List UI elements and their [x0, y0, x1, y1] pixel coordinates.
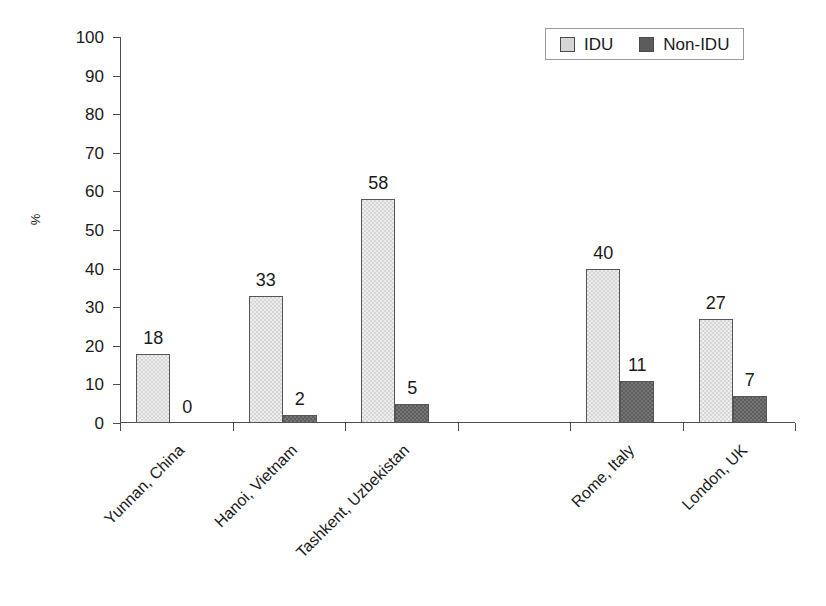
bar-value-non-idu-0: 0 [182, 398, 192, 416]
y-tick-label-80: 80 [85, 106, 104, 123]
bar-chart: IDU Non-IDU % 0102030405060708090100 180… [0, 0, 826, 606]
y-tick-30: 30 [113, 307, 120, 308]
bar-idu-5 [699, 319, 733, 423]
x-tick-2 [345, 423, 346, 431]
y-tick-label-10: 10 [85, 376, 104, 393]
x-tick-0 [120, 423, 121, 431]
y-tick-40: 40 [113, 269, 120, 270]
y-tick-100: 100 [113, 37, 120, 38]
y-axis-title: % [28, 214, 43, 226]
bar-value-idu-4: 40 [593, 244, 613, 262]
x-tick-4 [570, 423, 571, 431]
bar-value-non-idu-4: 11 [628, 356, 647, 374]
x-tick-5 [683, 423, 684, 431]
x-tick-3 [458, 423, 459, 431]
bar-idu-2 [361, 199, 395, 423]
y-tick-80: 80 [113, 114, 120, 115]
bar-value-idu-0: 18 [143, 329, 163, 347]
plot-area: 0102030405060708090100 1803325854011277 [120, 37, 795, 423]
y-tick-0: 0 [113, 423, 120, 424]
y-tick-label-70: 70 [85, 144, 104, 161]
x-tick-1 [233, 423, 234, 431]
y-tick-label-40: 40 [85, 260, 104, 277]
bar-value-non-idu-5: 7 [745, 371, 755, 389]
y-tick-label-20: 20 [85, 337, 104, 354]
y-tick-20: 20 [113, 346, 120, 347]
y-tick-70: 70 [113, 153, 120, 154]
bar-non-idu-1 [283, 415, 317, 423]
y-tick-label-0: 0 [95, 415, 104, 432]
bar-value-idu-2: 58 [368, 174, 388, 192]
y-tick-label-90: 90 [85, 67, 104, 84]
bar-value-non-idu-1: 2 [295, 390, 305, 408]
bar-non-idu-4 [620, 381, 654, 423]
bar-value-idu-1: 33 [256, 271, 276, 289]
bar-value-idu-5: 27 [706, 294, 726, 312]
bar-value-non-idu-2: 5 [407, 379, 417, 397]
x-category-label-2: Tashkent, Uzbekistan [168, 442, 413, 606]
y-tick-10: 10 [113, 384, 120, 385]
bar-non-idu-5 [733, 396, 767, 423]
bar-idu-1 [249, 296, 283, 423]
bar-non-idu-2 [395, 404, 429, 423]
x-tick-6 [795, 423, 796, 431]
y-axis-line [120, 37, 121, 423]
y-tick-label-60: 60 [85, 183, 104, 200]
y-tick-label-50: 50 [85, 222, 104, 239]
bar-idu-4 [586, 269, 620, 423]
y-tick-60: 60 [113, 191, 120, 192]
y-tick-label-100: 100 [76, 29, 104, 46]
bar-idu-0 [136, 354, 170, 423]
y-tick-50: 50 [113, 230, 120, 231]
y-tick-90: 90 [113, 76, 120, 77]
y-tick-label-30: 30 [85, 299, 104, 316]
